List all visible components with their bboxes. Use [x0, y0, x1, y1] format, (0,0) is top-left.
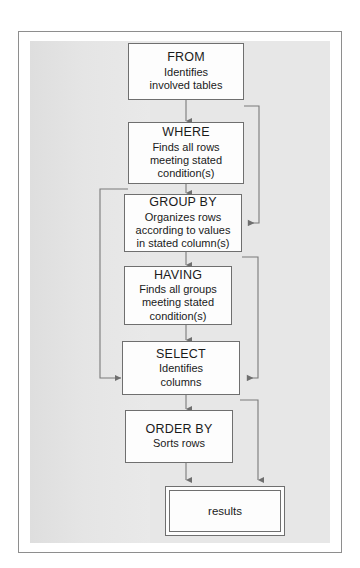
node-group-by-desc-line-2: according to values	[136, 224, 231, 237]
node-having-desc-line-3: condition(s)	[150, 310, 207, 323]
node-where-desc-line-3: condition(s)	[158, 167, 215, 180]
connector-select-bypass-to-results	[240, 400, 258, 480]
node-from-desc-line-2: involved tables	[150, 79, 223, 92]
node-order-by: ORDER BY Sorts rows	[125, 410, 233, 463]
node-having-desc-line-1: Finds all groups	[139, 283, 217, 296]
node-from: FROM Identifies involved tables	[128, 43, 244, 100]
node-group-by: GROUP BY Organizes rows according to val…	[124, 194, 242, 252]
node-select: SELECT Identifies columns	[122, 341, 240, 395]
node-results-label: results	[208, 505, 242, 517]
node-order-by-desc-line-1: Sorts rows	[153, 437, 205, 450]
node-having-desc-line-2: meeting stated	[142, 296, 214, 309]
node-where-desc-line-1: Finds all rows	[152, 141, 219, 154]
connector-group-by-bypass-to-select	[242, 257, 258, 378]
node-group-by-desc-line-3: in stated column(s)	[137, 237, 230, 250]
node-group-by-keyword: GROUP BY	[149, 195, 216, 210]
node-select-desc-line-1: Identifies	[159, 362, 203, 375]
node-where-desc-line-2: meeting stated	[150, 154, 222, 167]
node-from-desc-line-1: Identifies	[164, 66, 208, 79]
node-group-by-desc-line-1: Organizes rows	[145, 211, 221, 224]
node-select-keyword: SELECT	[156, 347, 206, 362]
node-results: results	[165, 486, 285, 536]
sql-order-of-operations-figure: FROM Identifies involved tables WHERE Fi…	[0, 0, 360, 568]
node-order-by-keyword: ORDER BY	[146, 422, 213, 437]
node-select-desc-line-2: columns	[161, 376, 202, 389]
node-having: HAVING Finds all groups meeting stated c…	[124, 266, 232, 325]
node-having-keyword: HAVING	[154, 268, 202, 283]
connector-from-bypass-to-group-by	[244, 106, 259, 223]
node-where-keyword: WHERE	[162, 125, 210, 140]
node-from-keyword: FROM	[167, 50, 205, 65]
node-where: WHERE Finds all rows meeting stated cond…	[128, 122, 244, 184]
node-results-label-wrap: results	[169, 490, 281, 532]
